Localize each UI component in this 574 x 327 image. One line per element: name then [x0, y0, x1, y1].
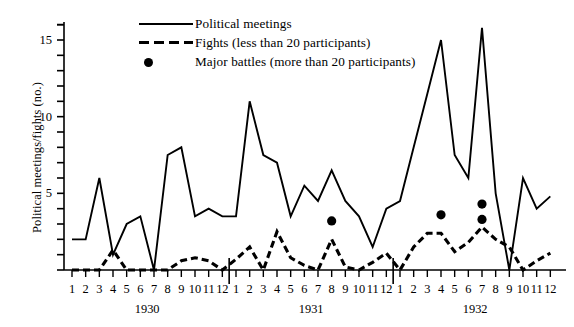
legend-label-major-battles: Major battles (more than 20 participants…: [195, 54, 416, 70]
y-tick-label-10: 10: [28, 112, 52, 122]
chart-legend: Political meetings Fights (less than 20 …: [137, 14, 467, 71]
legend-item-political-meetings: Political meetings: [137, 14, 467, 33]
x-group-label-1930: 1930: [117, 303, 177, 316]
x-group-label-1932: 1932: [445, 303, 505, 316]
x-group-label-1931: 1931: [281, 303, 341, 316]
legend-item-major-battles: Major battles (more than 20 participants…: [137, 52, 467, 71]
solid-line-icon: [137, 16, 195, 32]
y-tick-label-15: 15: [28, 35, 52, 45]
filled-dot-icon: [137, 54, 195, 70]
legend-label-political-meetings: Political meetings: [195, 16, 292, 32]
legend-item-fights: Fights (less than 20 participants): [137, 33, 467, 52]
y-tick-label-5: 5: [28, 188, 52, 198]
y-axis-tick-labels: 51015: [28, 0, 52, 327]
dashed-line-icon: [137, 35, 195, 51]
legend-label-fights: Fights (less than 20 participants): [195, 35, 371, 51]
x-tick-label-1932-12: 12: [540, 283, 560, 296]
chart-container: Political meetings/fights (no.) 51015 12…: [0, 0, 574, 327]
